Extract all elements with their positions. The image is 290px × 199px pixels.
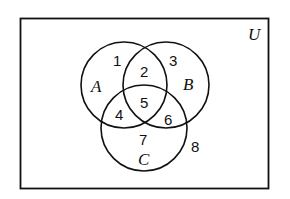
universe-label: U [248,25,262,44]
region-2-label: 2 [140,63,148,80]
region-3-label: 3 [169,52,177,69]
set-b-label: B [183,75,194,94]
region-6-label: 6 [164,111,172,128]
region-5-label: 5 [140,94,148,111]
region-4-label: 4 [115,106,123,123]
set-c-label: C [138,150,150,169]
region-8-label: 8 [191,138,199,155]
set-a-label: A [90,77,102,96]
region-1-label: 1 [113,52,121,69]
region-7-label: 7 [139,131,147,148]
venn-diagram: U A B C 1 2 3 4 5 6 7 8 [0,0,290,199]
